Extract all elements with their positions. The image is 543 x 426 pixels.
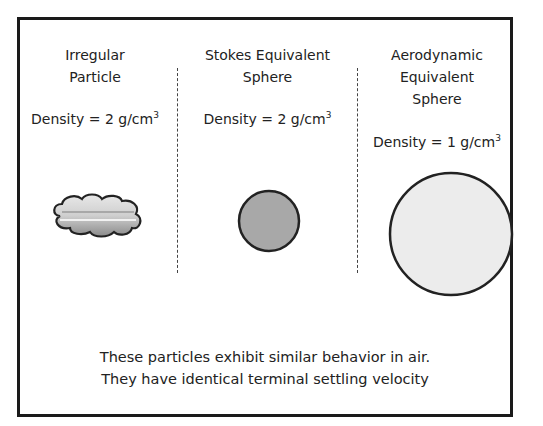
- title-line: Sphere: [362, 88, 512, 110]
- column-divider-1: [177, 68, 178, 273]
- density-text: Density = 2 g/cm: [31, 111, 153, 127]
- stokes-sphere-title: Stokes Equivalent Sphere: [180, 44, 355, 88]
- title-line: Irregular: [20, 44, 170, 66]
- aerodynamic-sphere-shape: [387, 170, 515, 298]
- stokes-density-label: Density = 2 g/cm3: [180, 111, 355, 127]
- density-exponent: 3: [153, 110, 159, 120]
- aerodynamic-sphere-circle: [390, 173, 512, 295]
- aerodynamic-density-label: Density = 1 g/cm3: [362, 134, 512, 150]
- column-divider-2: [357, 68, 358, 273]
- irregular-particle-title: Irregular Particle: [20, 44, 170, 88]
- stokes-sphere-shape: [237, 189, 301, 253]
- title-line: Equivalent: [362, 66, 512, 88]
- title-line: Stokes Equivalent: [180, 44, 355, 66]
- title-line: Aerodynamic: [362, 44, 512, 66]
- density-text: Density = 2 g/cm: [204, 111, 326, 127]
- density-text: Density = 1 g/cm: [373, 134, 495, 150]
- title-line: Particle: [20, 66, 170, 88]
- caption-line-1: These particles exhibit similar behavior…: [17, 346, 513, 368]
- caption-line-2: They have identical terminal settling ve…: [17, 368, 513, 390]
- density-exponent: 3: [495, 133, 501, 143]
- irregular-density-label: Density = 2 g/cm3: [20, 111, 170, 127]
- aerodynamic-sphere-title: Aerodynamic Equivalent Sphere: [362, 44, 512, 110]
- stokes-sphere-circle: [239, 191, 299, 251]
- caption: These particles exhibit similar behavior…: [17, 346, 513, 390]
- title-line: Sphere: [180, 66, 355, 88]
- density-exponent: 3: [326, 110, 332, 120]
- cloud-outline: [54, 195, 140, 237]
- irregular-particle-shape: [48, 190, 148, 250]
